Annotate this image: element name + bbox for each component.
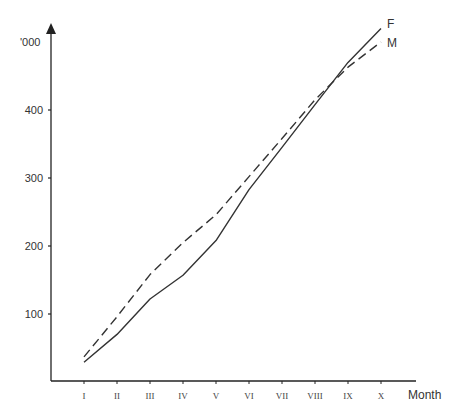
x-tick-label: IV xyxy=(178,391,188,401)
x-tick-label: VII xyxy=(276,391,289,401)
series-line-f xyxy=(84,28,381,362)
series-label-f: F xyxy=(387,17,394,31)
y-tick-label: 300 xyxy=(25,172,43,184)
x-tick-label: III xyxy=(146,391,155,401)
y-tick-label: 200 xyxy=(25,240,43,252)
x-tick-label: VIII xyxy=(307,391,323,401)
x-tick-label: X xyxy=(378,391,385,401)
series-line-m xyxy=(84,42,381,357)
series-lines xyxy=(84,28,381,362)
y-axis: '000 100200300400 xyxy=(20,23,56,381)
line-chart: '000 100200300400 IIIIIIIVVVIVIIVIIIIXX … xyxy=(0,0,457,416)
y-axis-arrow-icon xyxy=(46,23,56,34)
x-tick-label: V xyxy=(213,391,220,401)
x-tick-label: I xyxy=(83,391,86,401)
x-axis: IIIIIIIVVVIVIIVIIIIXX Month xyxy=(51,381,441,402)
y-axis-unit-label: '000 xyxy=(20,36,40,48)
x-tick-label: IX xyxy=(343,391,353,401)
series-label-m: M xyxy=(387,36,397,50)
x-tick-label: II xyxy=(114,391,120,401)
y-tick-label: 400 xyxy=(25,104,43,116)
y-tick-label: 100 xyxy=(25,308,43,320)
x-axis-title: Month xyxy=(408,388,441,402)
x-tick-label: VI xyxy=(244,391,254,401)
series-labels: FM xyxy=(387,17,397,50)
